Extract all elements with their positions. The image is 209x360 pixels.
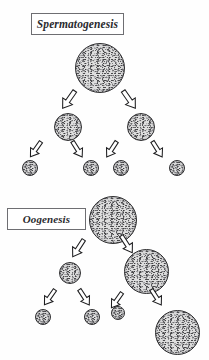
arrow-first-polar-body-to-polar-body-1b bbox=[75, 287, 95, 309]
cell-secondary-spermatocyte-right bbox=[127, 113, 155, 141]
oogenesis-label-box: Oogenesis bbox=[7, 208, 86, 230]
arrow-secondary-left-to-spermatid-1 bbox=[26, 139, 46, 161]
arrow-primary-oocyte-to-first-polar-body bbox=[67, 236, 89, 260]
cell-spermatid-3 bbox=[113, 160, 129, 176]
cell-polar-body-1b bbox=[84, 309, 100, 325]
cell-secondary-oocyte bbox=[124, 249, 169, 294]
cell-secondary-spermatocyte-left bbox=[54, 113, 82, 141]
spermatogenesis-label-box: Spermatogenesis bbox=[31, 13, 124, 35]
cell-spermatid-1 bbox=[22, 160, 38, 176]
spermatogenesis-label-text: Spermatogenesis bbox=[37, 18, 118, 30]
arrow-secondary-right-to-spermatid-4 bbox=[148, 139, 167, 161]
arrow-secondary-right-to-spermatid-3 bbox=[102, 139, 122, 161]
cell-ovum bbox=[155, 310, 200, 355]
arrow-first-polar-body-to-polar-body-1a bbox=[40, 287, 60, 309]
arrow-primary-to-secondary-left bbox=[57, 87, 80, 112]
cell-polar-body-1a bbox=[35, 309, 51, 325]
arrow-secondary-oocyte-to-ovum bbox=[147, 287, 167, 309]
gametogenesis-figure: Spermatogenesis bbox=[0, 0, 209, 360]
arrow-primary-to-secondary-right bbox=[118, 87, 141, 112]
oogenesis-label-text: Oogenesis bbox=[23, 213, 70, 225]
arrow-secondary-left-to-spermatid-2 bbox=[68, 139, 87, 161]
cell-spermatid-2 bbox=[83, 160, 99, 176]
cell-spermatid-4 bbox=[169, 160, 185, 176]
cell-first-polar-body bbox=[59, 262, 81, 284]
cell-primary-spermatocyte bbox=[75, 43, 125, 93]
